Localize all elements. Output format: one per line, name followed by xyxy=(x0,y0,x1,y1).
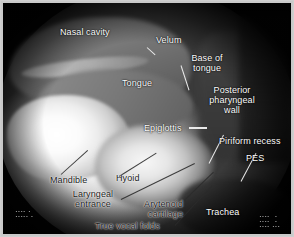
annotation-arytenoid-cartilage: Arytenoid cartilage xyxy=(123,199,183,219)
annotation-tongue: Tongue xyxy=(122,78,152,88)
leader-line-epiglottis xyxy=(189,127,207,129)
annotation-pes: PES xyxy=(246,153,264,163)
annotation-true-vocal-folds: True vocal folds xyxy=(95,221,160,231)
annotation-base-of-tongue: Base of tongue xyxy=(179,53,235,73)
radiograph-film: Nasal cavity Velum Base of tongue Tongue… xyxy=(3,3,291,234)
annotation-nasal-cavity: Nasal cavity xyxy=(60,27,110,37)
annotation-trachea: Trachea xyxy=(206,207,239,217)
overlay-text-bottom-right: ▪▪▪▪ ▪ ▪▪▪▪ ▪ ▪▪▪▪ ▪▪▪ xyxy=(259,215,280,230)
annotation-mandible: Mandible xyxy=(50,175,87,185)
figure-root: Nasal cavity Velum Base of tongue Tongue… xyxy=(0,0,294,237)
annotation-hyoid: Hyoid xyxy=(116,173,140,183)
overlay-text-bottom-left: ▪▪▪▪ ▪ ▪▪▪▪▪ ▪ xyxy=(15,210,33,220)
annotation-laryngeal-entrance: Laryngeal entrance xyxy=(64,189,122,209)
annotation-posterior-pharyngeal-wall: Posterior pharyngeal wall xyxy=(199,85,265,115)
annotation-epiglottis: Epiglottis xyxy=(144,123,182,133)
annotation-velum: Velum xyxy=(156,35,182,45)
annotation-piriform-recess: Piriform recess xyxy=(219,136,281,146)
